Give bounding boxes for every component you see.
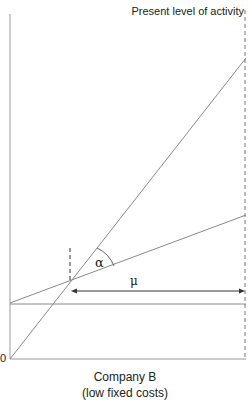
total-cost-line — [10, 215, 246, 303]
caption-company: Company B — [0, 369, 250, 385]
present-level-label: Present level of activity — [132, 5, 245, 17]
revenue-line — [10, 58, 246, 359]
origin-label: 0 — [0, 352, 6, 364]
angle-alpha-label: α — [95, 255, 104, 270]
margin-mu-label: μ — [130, 274, 138, 288]
caption: Company B (low fixed costs) — [0, 369, 250, 400]
break-even-diagram — [0, 0, 250, 400]
arrow-head-right-icon — [239, 289, 245, 294]
caption-subtitle: (low fixed costs) — [0, 385, 250, 400]
arrow-head-left-icon — [71, 289, 77, 294]
